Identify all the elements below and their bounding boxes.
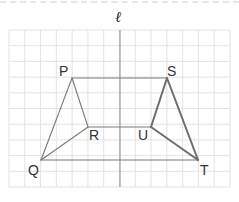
point-label-P: P (59, 64, 68, 78)
segment-PR (72, 78, 88, 127)
axis-label-l: ℓ (115, 10, 121, 25)
segment-SU (151, 78, 167, 127)
point-label-S: S (167, 64, 176, 78)
point-label-U: U (138, 128, 148, 142)
point-label-R: R (89, 128, 99, 142)
point-label-Q: Q (28, 163, 39, 177)
segment-QR (41, 127, 88, 160)
point-label-T: T (200, 163, 209, 177)
